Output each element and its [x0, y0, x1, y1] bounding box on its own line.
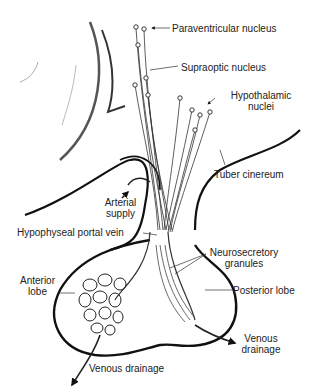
label-arterial-supply: Arterial supply [98, 197, 143, 219]
label-posterior-lobe: Posterior lobe [233, 285, 295, 296]
label-line-1: Neurosecretory [204, 247, 284, 258]
label-line-2: supply [98, 208, 143, 219]
label-line-2: granules [204, 258, 284, 269]
label-line-1: Hypothalamic [226, 90, 296, 101]
label-line-1: Arterial [98, 197, 143, 208]
pituitary-diagram [0, 0, 315, 390]
label-line-2: nuclei [226, 101, 296, 112]
brain-outline [20, 22, 125, 160]
label-line-2: drainage [236, 344, 286, 355]
label-anterior-lobe: Anterior lobe [15, 275, 60, 297]
label-tuber-cinereum: Tuber cinereum [214, 169, 284, 180]
label-line-1: Anterior [15, 275, 60, 286]
posterior-fibers [156, 245, 195, 322]
capillary-network [79, 274, 126, 335]
label-supraoptic-nucleus: Supraoptic nucleus [181, 62, 266, 73]
label-venous-drainage-right: Venous drainage [236, 333, 286, 355]
label-line-1: Venous [236, 333, 286, 344]
label-hypophyseal-portal-vein: Hypophyseal portal vein [17, 227, 124, 238]
label-neurosecretory-granules: Neurosecretory granules [204, 247, 284, 269]
label-venous-drainage-bottom: Venous drainage [89, 363, 164, 374]
label-hypothalamic-nuclei: Hypothalamic nuclei [226, 90, 296, 112]
label-line-2: lobe [15, 286, 60, 297]
label-paraventricular-nucleus: Paraventricular nucleus [172, 23, 277, 34]
